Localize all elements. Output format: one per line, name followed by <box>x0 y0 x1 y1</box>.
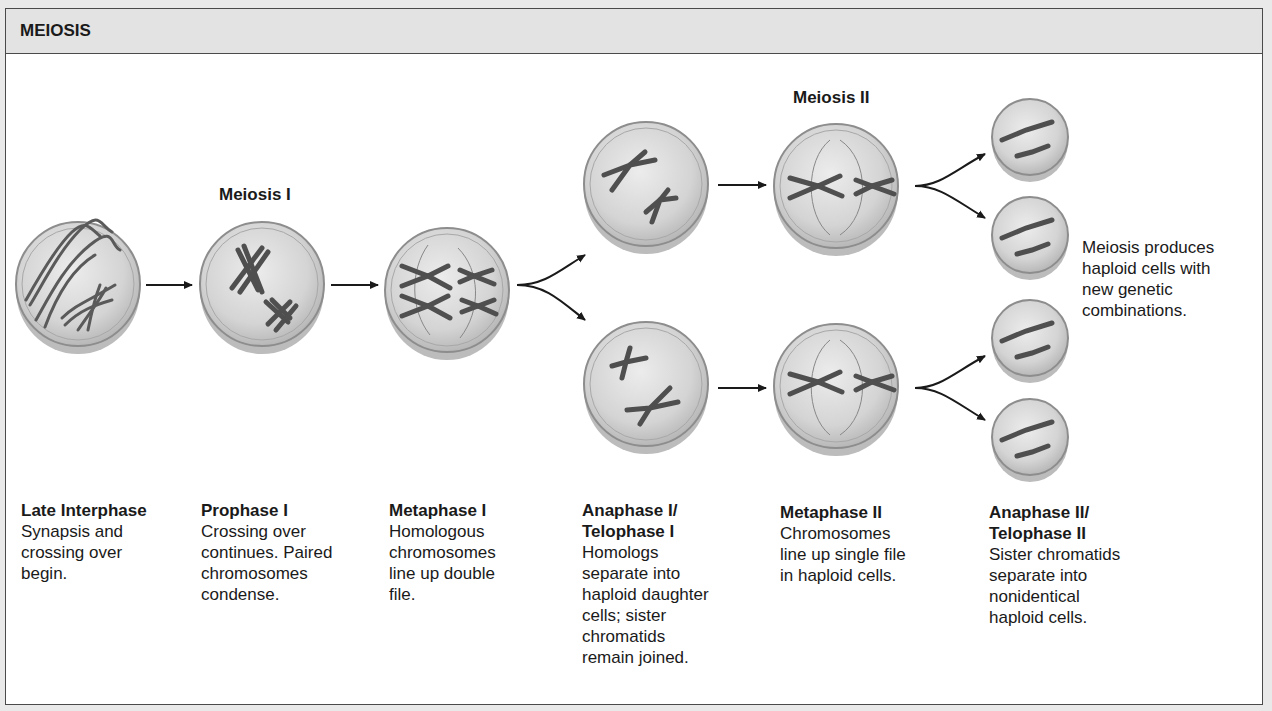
cell-prophase-1 <box>200 222 324 354</box>
branch-arrow-icon <box>915 186 985 218</box>
meiosis-1-label: Meiosis I <box>219 185 291 205</box>
stage-caption-anaphase-1: Anaphase I/ Telophase I Homologs separat… <box>582 500 709 668</box>
branch-arrow-icon <box>915 356 985 388</box>
stage-title: Metaphase II <box>780 502 906 523</box>
meiosis-2-label: Meiosis II <box>793 88 870 108</box>
branch-arrow-icon <box>517 285 585 320</box>
cell-telophase-2-c <box>992 300 1068 383</box>
stage-description: Homologous chromosomes line up double fi… <box>389 521 496 605</box>
cell-telophase-2-b <box>992 197 1068 280</box>
stage-caption-metaphase-1: Metaphase I Homologous chromosomes line … <box>389 500 496 605</box>
stage-title: Late Interphase <box>21 500 147 521</box>
stage-caption-anaphase-2: Anaphase II/ Telophase II Sister chromat… <box>989 502 1120 628</box>
stage-description: Chromosomes line up single file in haplo… <box>780 523 906 586</box>
stage-title: Anaphase I/ Telophase I <box>582 500 709 542</box>
stage-description: Homologs separate into haploid daughter … <box>582 542 709 668</box>
stage-description: Sister chromatids separate into nonident… <box>989 544 1120 628</box>
branch-arrow-icon <box>517 255 585 285</box>
cell-telophase-2-a <box>992 99 1068 182</box>
stage-caption-metaphase-2: Metaphase II Chromosomes line up single … <box>780 502 906 586</box>
branch-arrow-icon <box>915 388 985 420</box>
summary-text: Meiosis produces haploid cells with new … <box>1082 237 1214 321</box>
cell-late-interphase <box>16 220 140 354</box>
cell-anaphase-1-bottom <box>584 322 708 454</box>
stage-caption-late-interphase: Late Interphase Synapsis and crossing ov… <box>21 500 147 584</box>
stage-title: Metaphase I <box>389 500 496 521</box>
stage-title: Anaphase II/ Telophase II <box>989 502 1120 544</box>
branch-arrow-icon <box>915 154 985 186</box>
stage-description: Crossing over continues. Paired chromoso… <box>201 521 332 605</box>
cell-anaphase-1-top <box>584 122 708 254</box>
stage-title: Prophase I <box>201 500 332 521</box>
stage-description: Synapsis and crossing over begin. <box>21 521 147 584</box>
cell-metaphase-2-top <box>774 124 898 256</box>
stage-caption-prophase-1: Prophase I Crossing over continues. Pair… <box>201 500 332 605</box>
cell-telophase-2-d <box>992 399 1068 482</box>
cell-metaphase-2-bottom <box>774 324 898 456</box>
cell-metaphase-1 <box>385 228 509 360</box>
